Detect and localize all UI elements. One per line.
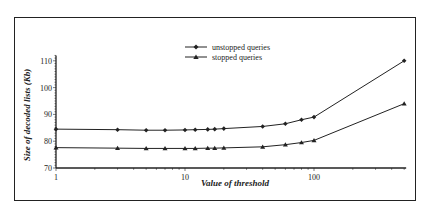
diamond-marker-icon bbox=[283, 121, 288, 126]
diamond-marker-icon bbox=[144, 128, 149, 133]
line-chart: 708090100110110100 Value of threshold Si… bbox=[0, 0, 432, 224]
diamond-marker-icon bbox=[312, 115, 317, 120]
diamond-marker-icon bbox=[260, 124, 265, 129]
plot-area bbox=[54, 59, 407, 151]
diamond-marker-icon bbox=[183, 128, 188, 133]
diamond-marker-icon bbox=[212, 127, 217, 132]
diamond-marker-icon bbox=[54, 127, 59, 132]
series-line bbox=[56, 104, 404, 149]
diamond-marker-icon bbox=[163, 128, 168, 133]
series-line bbox=[56, 61, 404, 130]
triangle-marker-icon bbox=[402, 101, 407, 105]
legend: unstopped queries stopped queries bbox=[185, 43, 270, 62]
x-axis-label: Value of threshold bbox=[201, 178, 270, 188]
x-tick-label: 10 bbox=[181, 173, 189, 182]
legend-item-stopped: stopped queries bbox=[185, 53, 262, 62]
y-tick-label: 70 bbox=[44, 164, 52, 173]
x-tick-label: 100 bbox=[308, 173, 320, 182]
y-tick-label: 110 bbox=[40, 57, 52, 66]
diamond-marker-icon bbox=[193, 127, 198, 132]
svg-text:unstopped queries: unstopped queries bbox=[212, 43, 270, 52]
y-tick-label: 100 bbox=[40, 84, 52, 93]
y-tick-label: 80 bbox=[44, 137, 52, 146]
diamond-marker-icon bbox=[115, 127, 120, 132]
diamond-marker-icon bbox=[299, 117, 304, 122]
x-tick-label: 1 bbox=[54, 173, 58, 182]
svg-text:stopped queries: stopped queries bbox=[212, 53, 262, 62]
diamond-marker-icon bbox=[205, 127, 210, 132]
legend-item-unstopped: unstopped queries bbox=[185, 43, 270, 52]
diamond-marker-icon bbox=[402, 59, 407, 64]
y-tick-label: 90 bbox=[44, 110, 52, 119]
axes: 708090100110110100 bbox=[40, 55, 406, 182]
diamond-marker-icon bbox=[222, 126, 227, 131]
diamond-marker-icon bbox=[194, 45, 199, 50]
y-axis-label: Size of decoded lists (Kb) bbox=[22, 69, 32, 162]
